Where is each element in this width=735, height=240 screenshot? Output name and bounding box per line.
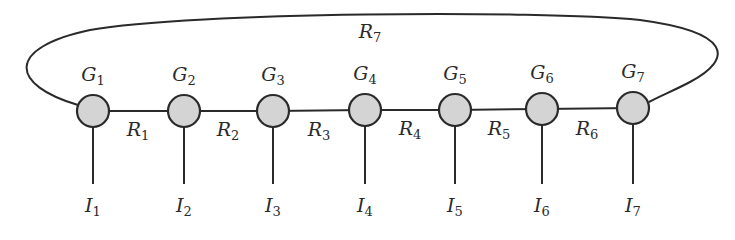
- node-label-g6: G6: [530, 63, 553, 85]
- edge-label-r3: R3: [308, 120, 331, 142]
- input-label-i1: I1: [85, 196, 101, 218]
- edge-label-r6: R6: [576, 119, 599, 141]
- node-label-g7: G7: [621, 62, 644, 84]
- input-label-i6: I6: [534, 196, 550, 218]
- node-g2: [168, 95, 200, 127]
- node-g5: [439, 94, 471, 126]
- edge-label-r2: R2: [217, 120, 240, 142]
- input-label-i3: I3: [265, 196, 281, 218]
- edge-label-r5: R5: [488, 119, 511, 141]
- node-g3: [257, 95, 289, 127]
- node-g1: [77, 95, 109, 127]
- node-label-g2: G2: [172, 65, 195, 87]
- edge-label-r4: R4: [399, 119, 422, 141]
- input-label-i4: I4: [357, 196, 373, 218]
- node-g6: [526, 93, 558, 125]
- input-label-i2: I2: [176, 196, 192, 218]
- edge-label-r1: R1: [127, 120, 150, 142]
- node-label-g3: G3: [261, 65, 284, 87]
- input-label-i7: I7: [625, 196, 641, 218]
- node-label-g1: G1: [81, 65, 104, 87]
- node-label-g5: G5: [443, 64, 466, 86]
- edge-label-r7: R7: [359, 22, 382, 44]
- input-label-i5: I5: [447, 196, 463, 218]
- node-g4: [349, 94, 381, 126]
- node-g7: [617, 92, 649, 124]
- node-label-g4: G4: [353, 64, 376, 86]
